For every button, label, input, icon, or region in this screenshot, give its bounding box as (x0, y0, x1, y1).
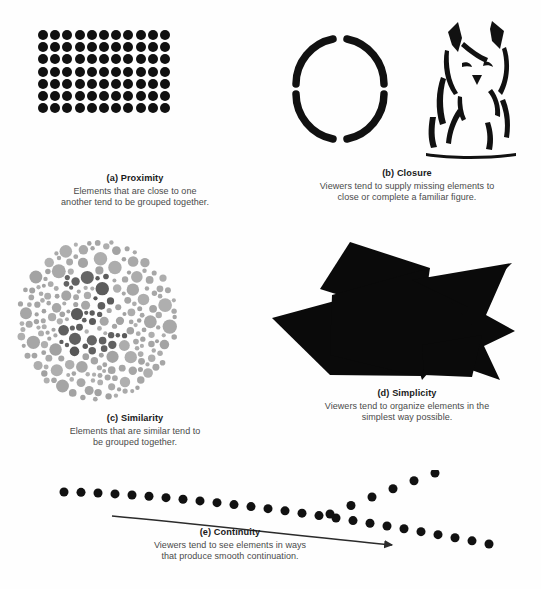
continuity-dot-branch (389, 484, 398, 493)
similarity-dot-ground (145, 362, 149, 366)
similarity-dot-ground (54, 251, 58, 255)
caption-title-continuity: (e) Continuity (110, 527, 350, 539)
proximity-dot (87, 79, 97, 89)
similarity-dot-ground (82, 353, 89, 360)
similarity-dot-ground (95, 240, 101, 246)
proximity-dot (75, 67, 85, 77)
similarity-dot-ground (90, 246, 94, 250)
proximity-dot (62, 91, 72, 101)
similarity-dot-ground (97, 326, 102, 331)
similarity-dot-ground (156, 312, 162, 318)
similarity-dot-figure (122, 333, 127, 338)
similarity-dot-figure (88, 347, 96, 355)
similarity-dot-ground (56, 380, 69, 393)
broken-circle-icon (275, 14, 405, 154)
similarity-dot-ground (127, 283, 139, 295)
proximity-dot (62, 103, 72, 113)
similarity-dot-ground (45, 355, 52, 362)
similarity-dot-ground (97, 365, 102, 370)
similarity-dot-figure (71, 277, 79, 285)
similarity-dot-ground (158, 294, 163, 299)
proximity-dot (99, 67, 109, 77)
similarity-dot-ground (109, 240, 113, 244)
similarity-dot-ground (44, 258, 53, 267)
proximity-dot (136, 79, 146, 89)
similarity-dot-ground (78, 258, 88, 268)
similarity-dot-ground (103, 331, 107, 335)
continuity-dot-main (349, 516, 358, 525)
similarity-dot-ground (40, 298, 45, 303)
proximity-dot (123, 91, 133, 101)
similarity-dot-ground (133, 323, 137, 327)
similarity-dot-ground (91, 357, 98, 364)
proximity-dot (148, 30, 158, 40)
similarity-dot-ground (152, 290, 157, 295)
similarity-dot-ground (38, 330, 44, 336)
continuity-dot-main (230, 500, 239, 509)
similarity-dot-ground (159, 274, 166, 281)
similarity-dot-ground (148, 332, 154, 338)
similarity-dot-ground (142, 328, 147, 333)
similarity-dot-ground (158, 298, 172, 312)
similarity-dot-ground (84, 329, 88, 333)
caption-line2-continuity: that produce smooth continuation. (110, 551, 350, 562)
proximity-dot (136, 103, 146, 113)
similarity-dot-figure (83, 344, 88, 349)
similarity-dot-ground (122, 257, 127, 262)
similarity-dot-ground (112, 375, 118, 381)
proximity-dot (38, 42, 48, 52)
similarity-dot-ground (43, 277, 47, 281)
proximity-dot (99, 42, 109, 52)
similarity-dot-figure (99, 337, 107, 345)
similarity-dot-ground (90, 286, 94, 290)
caption-line2-similarity: be grouped together. (15, 437, 255, 448)
similarity-dot-ground (47, 337, 51, 341)
similarity-dot-ground (57, 256, 61, 260)
similarity-dot-ground (157, 285, 164, 292)
similarity-dot-figure (96, 282, 109, 295)
cat-silhouette-icon (418, 5, 538, 160)
similarity-dot-ground (20, 321, 25, 326)
similarity-dot-ground (127, 327, 135, 335)
proximity-dot (62, 67, 72, 77)
proximity-dot (50, 54, 60, 64)
caption-line1-similarity: Elements that are similar tend to (15, 426, 255, 437)
caption-closure: (b) Closure Viewers tend to supply missi… (287, 168, 527, 204)
similarity-dot-ground (106, 351, 118, 363)
similarity-dot-ground (133, 250, 137, 254)
proximity-dot (111, 54, 121, 64)
similarity-dot-ground (128, 256, 139, 267)
similarity-dot-ground (128, 308, 136, 316)
continuity-dot-branch (431, 470, 440, 478)
similarity-dot-ground (122, 312, 126, 316)
similarity-dot-figure (103, 274, 109, 280)
similarity-dot-ground (41, 341, 48, 348)
similarity-dot-ground (136, 331, 141, 336)
similarity-dot-ground (99, 353, 104, 358)
continuity-dot-main (434, 530, 443, 539)
similarity-dot-ground (97, 380, 103, 386)
proximity-dot (111, 67, 121, 77)
similarity-dot-ground (119, 365, 126, 372)
proximity-dot (99, 91, 109, 101)
similarity-dot-ground (58, 356, 64, 362)
continuity-dot-main (417, 527, 426, 536)
similarity-dot-ground (149, 305, 157, 313)
proximity-dot (148, 103, 158, 113)
proximity-dot (148, 79, 158, 89)
similarity-dot-ground (117, 387, 121, 391)
similarity-dot-ground (80, 395, 85, 400)
similarity-dot-ground (160, 340, 170, 350)
similarity-dot-ground (131, 271, 143, 283)
continuity-dot-main (77, 488, 86, 497)
proximity-dot (160, 30, 170, 40)
proximity-dot (87, 103, 97, 113)
continuity-dot-main (485, 540, 494, 549)
similarity-dot-ground (39, 291, 44, 296)
similarity-dot-ground (123, 389, 128, 394)
similarity-dot-ground (116, 317, 124, 325)
ishihara-plate-icon (12, 235, 182, 405)
proximity-dot (148, 91, 158, 101)
continuity-dot-main (281, 506, 290, 515)
similarity-dot-ground (142, 269, 146, 273)
